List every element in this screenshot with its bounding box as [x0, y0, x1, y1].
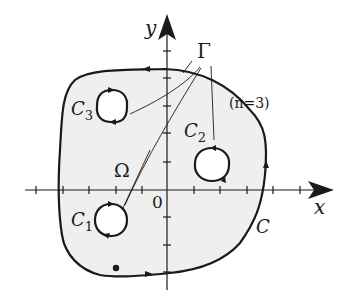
boundary-label-gamma: Γ [197, 39, 211, 63]
origin-label: 0 [152, 192, 163, 212]
diagram: y x 0 Γ (n=3) Ω C C3 C2 C1 [0, 0, 351, 303]
start-point-dot [113, 265, 119, 271]
y-axis-label: y [144, 16, 157, 40]
annotation-n: (n=3) [229, 95, 270, 111]
inner-contour-c3 [97, 90, 127, 122]
region-label-omega: Ω [114, 159, 130, 181]
inner-contour-c2 [195, 148, 229, 181]
x-axis-label: x [314, 195, 325, 219]
outer-contour-label: C [256, 216, 270, 237]
